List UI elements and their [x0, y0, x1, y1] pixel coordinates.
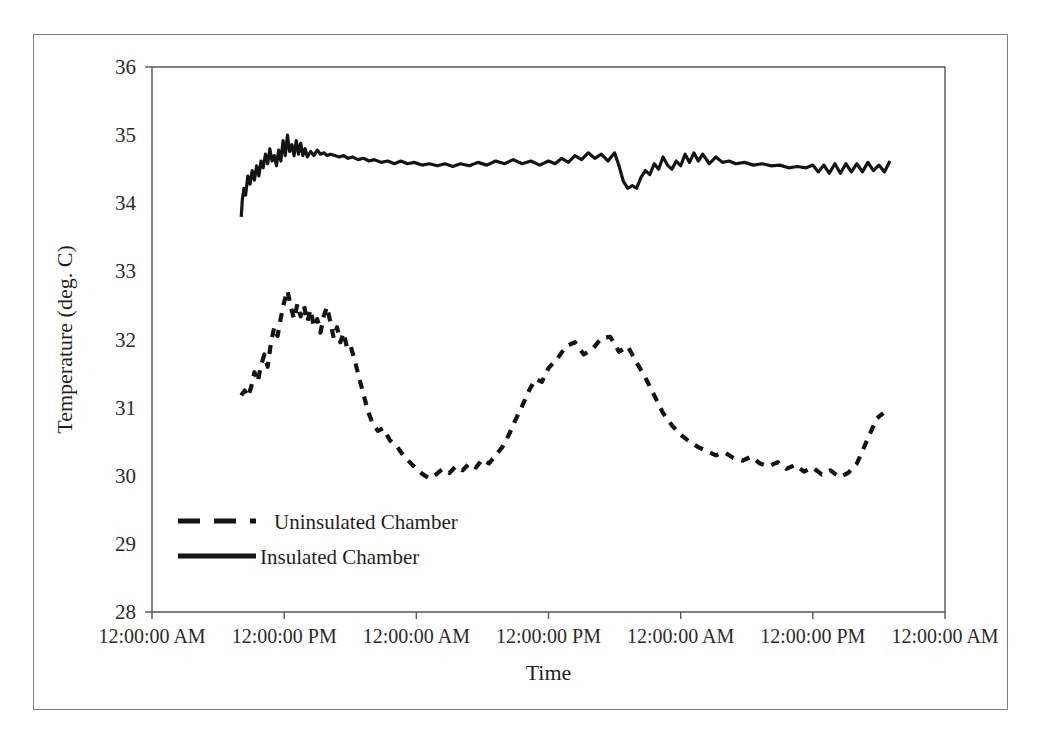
y-tick-label-1: 29 [115, 532, 136, 556]
y-tick-label-7: 35 [115, 123, 136, 147]
y-axis-title: Temperature (deg. C) [52, 245, 77, 433]
legend-label-uninsulated-chamber: Uninsulated Chamber [274, 510, 458, 534]
x-tick-label-2: 12:00:00 AM [363, 625, 470, 647]
series-line-insulated-chamber [241, 135, 890, 217]
y-tick-label-2: 30 [115, 464, 136, 488]
chart-figure: 12:00:00 AM12:00:00 PM12:00:00 AM12:00:0… [0, 0, 1039, 743]
series-line-uninsulated-chamber [241, 290, 883, 478]
x-tick-label-5: 12:00:00 PM [760, 625, 865, 647]
y-tick-label-4: 32 [115, 328, 136, 352]
y-tick-label-0: 28 [115, 600, 136, 624]
x-tick-label-4: 12:00:00 AM [627, 625, 734, 647]
y-tick-label-5: 33 [115, 259, 136, 283]
chart-plot-area: 12:00:00 AM12:00:00 PM12:00:00 AM12:00:0… [0, 0, 1039, 743]
x-tick-label-6: 12:00:00 AM [891, 625, 998, 647]
y-tick-label-6: 34 [115, 191, 137, 215]
x-axis-title: Time [526, 660, 572, 685]
legend-label-insulated-chamber: Insulated Chamber [260, 545, 419, 569]
x-tick-label-3: 12:00:00 PM [496, 625, 601, 647]
y-tick-label-3: 31 [115, 396, 136, 420]
y-tick-label-8: 36 [115, 55, 136, 79]
x-tick-label-1: 12:00:00 PM [232, 625, 337, 647]
x-tick-label-0: 12:00:00 AM [98, 625, 205, 647]
